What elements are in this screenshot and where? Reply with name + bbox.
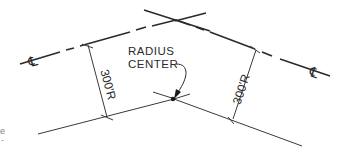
right-radius-label: 300'R — [230, 72, 253, 106]
left-radius-label: 300'R — [97, 68, 119, 102]
radius-center-label-line2: CENTER — [128, 58, 178, 70]
edge-mark-2: - — [1, 135, 4, 145]
radius-center-label-line1: RADIUS — [128, 45, 174, 57]
curve-diagram: ℄ ℄ 300'R 300'R RADIUS CENTER e - — [0, 0, 340, 154]
pi-cross — [144, 10, 210, 31]
radius-baseline — [38, 92, 302, 146]
centerline-symbol-left: ℄ — [25, 52, 39, 70]
centerline-symbol-right: ℄ — [306, 63, 321, 81]
